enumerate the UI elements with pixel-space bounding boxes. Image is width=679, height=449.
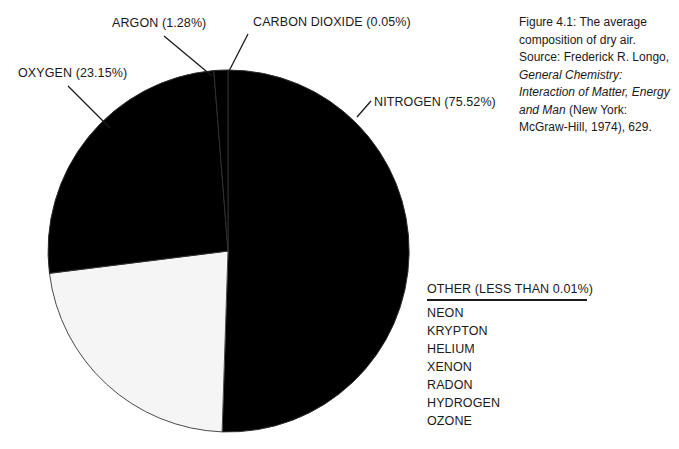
leader-line-nitrogen bbox=[357, 101, 371, 117]
list-item: KRYPTON bbox=[427, 322, 657, 340]
caption-italic-1: General Chemistry: bbox=[519, 68, 622, 82]
caption-line-1: Figure 4.1: The average bbox=[519, 15, 647, 29]
label-nitrogen: NITROGEN (75.52%) bbox=[374, 95, 496, 110]
pie-slice-oxygen bbox=[49, 251, 228, 432]
list-item: NEON bbox=[427, 304, 657, 322]
caption-italic-2: Interaction of Matter, Energy bbox=[519, 85, 670, 99]
caption-line-5: McGraw-Hill, 1974), 629. bbox=[519, 120, 652, 134]
list-item: HELIUM bbox=[427, 340, 657, 358]
leader-line-oxygen bbox=[68, 86, 110, 128]
caption-line-4-rest: (New York: bbox=[566, 103, 627, 117]
list-item: XENON bbox=[427, 358, 657, 376]
caption-italic-3: and Man bbox=[519, 103, 566, 117]
list-item: HYDROGEN bbox=[427, 394, 657, 412]
figure-container: ARGON (1.28%) CARBON DIOXIDE (0.05%) OXY… bbox=[0, 0, 679, 449]
other-gases-divider bbox=[427, 299, 587, 301]
other-gases-list: NEON KRYPTON HELIUM XENON RADON HYDROGEN… bbox=[427, 304, 657, 430]
leader-line-argon bbox=[164, 36, 212, 76]
other-gases-heading: OTHER (LESS THAN 0.01%) bbox=[427, 282, 657, 299]
other-gases-group: OTHER (LESS THAN 0.01%) NEON KRYPTON HEL… bbox=[427, 282, 657, 430]
label-oxygen: OXYGEN (23.15%) bbox=[18, 66, 127, 81]
leader-line-carbon-dioxide bbox=[228, 34, 248, 73]
pie-slice-argon bbox=[48, 71, 228, 274]
label-carbon-dioxide: CARBON DIOXIDE (0.05%) bbox=[253, 15, 411, 30]
caption-line-2: composition of dry air. bbox=[519, 33, 636, 47]
list-item: OZONE bbox=[427, 412, 657, 430]
pie-slice-nitrogen bbox=[222, 70, 409, 432]
figure-caption: Figure 4.1: The average composition of d… bbox=[519, 14, 671, 137]
caption-line-3: Source: Frederick R. Longo, bbox=[519, 50, 669, 64]
list-item: RADON bbox=[427, 376, 657, 394]
label-argon: ARGON (1.28%) bbox=[112, 16, 206, 31]
